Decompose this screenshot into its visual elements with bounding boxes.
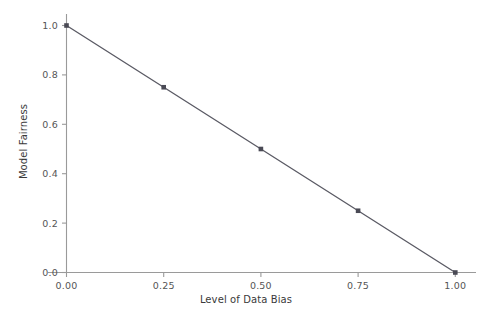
x-tick-label: 1.00 [425, 280, 485, 291]
x-tick-label: 0.50 [231, 280, 291, 291]
data-point-marker [64, 23, 69, 28]
x-tick-label: 0.75 [328, 280, 388, 291]
x-axis-ticks [67, 273, 456, 278]
chart-figure: 1.0 0.8 0.6 0.4 0.2 0.0 0.00 0.25 0.50 0… [0, 0, 492, 314]
y-axis-ticks [62, 26, 67, 273]
data-point-marker [453, 270, 458, 275]
y-tick-label: 1.0 [18, 20, 58, 31]
y-axis-label: Model Fairness [18, 62, 29, 222]
x-tick-label: 0.25 [134, 280, 194, 291]
x-axis-label: Level of Data Bias [0, 294, 492, 305]
chart-canvas [0, 0, 492, 314]
y-tick-label: 0.0 [18, 267, 58, 278]
x-tick-label: 0.00 [37, 280, 97, 291]
data-point-marker [259, 147, 264, 152]
data-point-marker [356, 208, 361, 213]
data-point-marker [161, 85, 166, 90]
